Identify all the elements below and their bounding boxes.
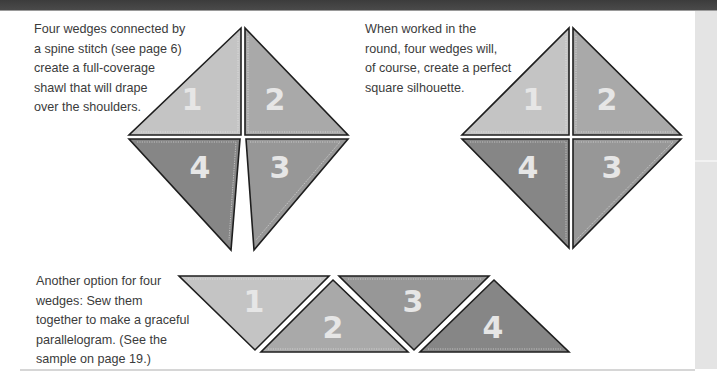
wedge-number: 4 bbox=[518, 150, 539, 185]
wedge-3: 3 bbox=[246, 139, 348, 250]
wedge-2: 2 bbox=[245, 28, 348, 135]
wedge-3: 3 bbox=[573, 139, 681, 248]
wedge-diagrams: .w1 { fill: #c4c4c4; } .w2 { fill: #a9a9… bbox=[0, 0, 717, 373]
wedge-number: 3 bbox=[602, 150, 623, 185]
wedge-2: 2 bbox=[573, 28, 681, 135]
shawl-diamond: 1 2 4 3 bbox=[129, 28, 348, 250]
square-diamond: 1 2 4 3 bbox=[462, 28, 681, 248]
wedge-number: 2 bbox=[597, 82, 618, 117]
wedge-number: 3 bbox=[270, 150, 291, 185]
wedge-1: 1 bbox=[129, 28, 241, 135]
wedge-number: 3 bbox=[403, 284, 424, 319]
wedge-number: 1 bbox=[523, 82, 544, 117]
wedge-4: 4 bbox=[462, 139, 569, 248]
wedge-number: 1 bbox=[182, 82, 203, 117]
wedge-number: 2 bbox=[323, 310, 344, 345]
wedge-number: 1 bbox=[244, 284, 265, 319]
wedge-4: 4 bbox=[129, 139, 240, 250]
wedge-number: 2 bbox=[265, 82, 286, 117]
wedge-number: 4 bbox=[483, 310, 504, 345]
parallelogram: 1 2 3 4 bbox=[179, 276, 569, 352]
wedge-1: 1 bbox=[462, 28, 569, 135]
wedge-number: 4 bbox=[190, 150, 211, 185]
